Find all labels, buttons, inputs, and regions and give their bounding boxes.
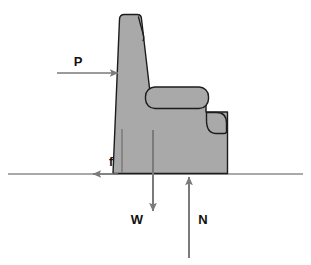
force-label-P: P: [74, 54, 83, 69]
free-body-diagram: P f W N: [0, 0, 311, 265]
armrest-front-scroll: [207, 113, 227, 134]
diagram-canvas: P f W N: [0, 0, 311, 265]
force-vector-P: P: [57, 54, 118, 73]
force-label-N: N: [198, 212, 207, 227]
force-vector-N: N: [189, 177, 208, 258]
force-label-W: W: [131, 212, 144, 227]
chair-figure: [113, 15, 228, 174]
armrest: [146, 87, 209, 109]
